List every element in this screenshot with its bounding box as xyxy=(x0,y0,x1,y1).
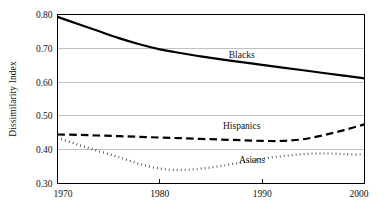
plot-frame xyxy=(58,15,365,184)
y-tick-label: 0.40 xyxy=(36,145,53,155)
series-label-hispanics: Hispanics xyxy=(223,121,261,131)
y-axis-title: Dissimilarity Index xyxy=(8,61,18,137)
x-tick-label: 1970 xyxy=(54,189,73,199)
series-line-hispanics xyxy=(58,124,365,141)
series-line-asians xyxy=(58,138,365,170)
x-tick-label: 2000 xyxy=(350,189,369,199)
y-tick-label: 0.50 xyxy=(36,111,53,121)
y-tick-label: 0.70 xyxy=(36,44,53,54)
x-tick-label: 1980 xyxy=(150,189,169,199)
x-tick-label: 1990 xyxy=(253,189,272,199)
series-label-asians: Asians xyxy=(239,155,265,165)
chart-canvas: 0.300.400.500.600.700.80 197019801990200… xyxy=(0,0,390,211)
dissimilarity-index-chart: 0.300.400.500.600.700.80 197019801990200… xyxy=(0,0,390,211)
y-axis-tick-labels: 0.300.400.500.600.700.80 xyxy=(36,10,53,189)
series-label-blacks: Blacks xyxy=(229,50,255,60)
series-line-blacks xyxy=(58,17,365,79)
series-inline-labels: BlacksHispanicsAsians xyxy=(223,50,265,165)
y-tick-label: 0.60 xyxy=(36,78,53,88)
y-tick-label: 0.30 xyxy=(36,179,53,189)
y-tick-label: 0.80 xyxy=(36,10,53,20)
x-axis-tick-labels: 1970198019902000 xyxy=(54,189,369,199)
plot-border xyxy=(58,15,365,184)
x-tick-marks xyxy=(160,179,262,184)
gridlines xyxy=(58,48,365,149)
series-lines xyxy=(58,17,365,170)
